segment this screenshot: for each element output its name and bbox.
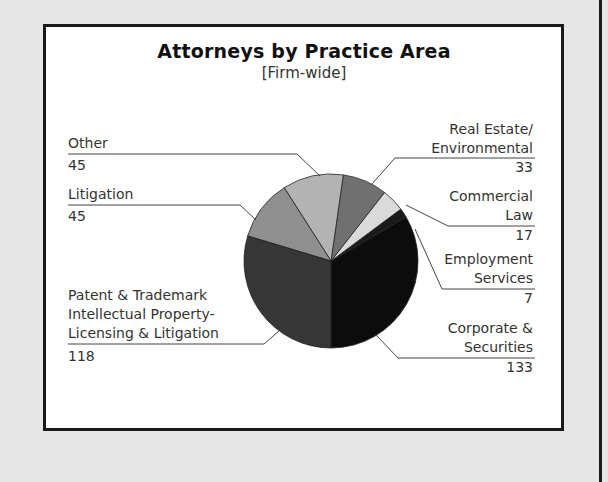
label-litigation: Litigation 45 [68,185,133,226]
label-corporate: Corporate & Securities 133 [448,319,533,377]
label-other: Other 45 [68,134,108,175]
label-commercial: Commercial Law 17 [449,187,533,245]
label-employment: Employment Services 7 [444,250,533,308]
label-real-estate: Real Estate/ Environmental 33 [431,120,533,177]
pie-slices [244,174,418,348]
label-patent: Patent & Trademark Intellectual Property… [68,286,219,366]
